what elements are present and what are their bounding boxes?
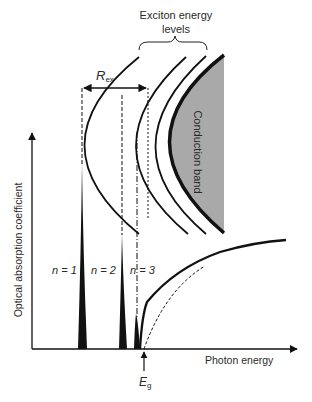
label-n2: n = 2 [91,264,116,276]
label-n3: n = 3 [130,264,156,276]
absorption-peak-n3 [134,314,140,349]
rex-label: Rex [96,68,114,84]
label-n1: n = 1 [52,264,77,276]
free-carrier-absorption-dashed [144,266,205,349]
exciton-levels-title-line2: levels [162,23,191,35]
eg-label: Eg [139,375,151,390]
absorption-peak-n2 [119,233,127,349]
exciton-levels-title: Exciton energy [140,9,213,21]
absorption-peak-n1 [78,163,87,349]
x-axis-label: Photon energy [205,354,274,366]
y-axis-label: Optical absorption coefficient [12,183,24,318]
continuum-absorption-curve [140,240,286,349]
conduction-band-label: Conduction band [192,110,204,193]
exciton-absorption-diagram: Rex Exciton energy levels Conduction ban… [0,0,312,402]
exciton-levels-brace [139,36,207,50]
